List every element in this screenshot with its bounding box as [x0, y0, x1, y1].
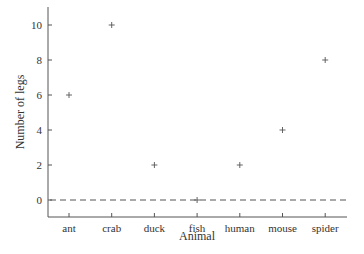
y-tick-label: 4 [37, 124, 43, 136]
y-tick-label: 10 [31, 19, 43, 31]
y-tick-label: 6 [37, 89, 43, 101]
y-tick-label: 2 [37, 159, 43, 171]
data-point-fish [194, 197, 200, 203]
data-point-human [237, 162, 243, 168]
scatter-chart: 0246810 antcrabduckfishhumanmousespider … [0, 0, 364, 254]
data-point-ant [66, 92, 72, 98]
data-point-crab [109, 22, 115, 28]
data-point-duck [151, 162, 157, 168]
y-tick-label: 8 [37, 54, 43, 66]
y-tick-label: 0 [37, 194, 43, 206]
x-tick-label: mouse [268, 222, 297, 234]
data-point-spider [322, 57, 328, 63]
x-tick-label: duck [144, 222, 166, 234]
x-tick-label: human [225, 222, 255, 234]
y-axis: 0246810 [31, 7, 52, 217]
data-point-mouse [280, 127, 286, 133]
x-axis-label: Animal [179, 229, 216, 243]
x-tick-label: ant [62, 222, 75, 234]
x-tick-label: spider [312, 222, 339, 234]
x-tick-label: crab [102, 222, 121, 234]
data-points [66, 22, 328, 203]
y-axis-label: Number of legs [13, 74, 27, 149]
